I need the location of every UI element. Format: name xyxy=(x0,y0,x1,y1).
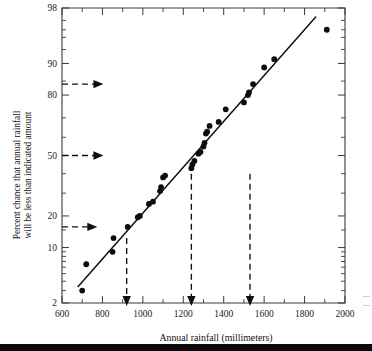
x-tick-label: 1800 xyxy=(295,309,314,319)
v-arrow-1240-head xyxy=(187,296,195,306)
data-point xyxy=(202,140,208,146)
h-arrow-16-head xyxy=(87,223,97,231)
y-tick-label: 20 xyxy=(48,211,58,221)
data-point xyxy=(324,27,330,33)
h-arrow-84-head xyxy=(93,80,103,88)
x-axis-ticks xyxy=(62,8,345,303)
data-point xyxy=(150,199,156,205)
y-tick-label: 80 xyxy=(48,90,58,100)
y-axis-tick-labels: 2102050809098 xyxy=(48,3,58,308)
data-point xyxy=(158,184,164,190)
data-point xyxy=(246,90,252,96)
svg-text:Percent chance that annual rai: Percent chance that annual rainfall xyxy=(12,110,22,239)
x-axis-tick-labels: 600800100012001400160018002000 xyxy=(55,309,355,319)
h-arrow-50-head xyxy=(93,151,103,159)
x-tick-label: 1600 xyxy=(255,309,274,319)
data-point xyxy=(198,149,204,155)
v-arrow-920-head xyxy=(122,296,130,306)
svg-text:will be less than indicated am: will be less than indicated amount xyxy=(23,111,33,238)
x-tick-label: 600 xyxy=(55,309,70,319)
y-axis-title: Percent chance that annual rainfall will… xyxy=(12,110,33,239)
data-point xyxy=(216,119,222,125)
data-point xyxy=(83,261,89,267)
scan-border-bar xyxy=(0,344,372,351)
data-point xyxy=(241,100,247,106)
y-axis-ticks xyxy=(62,8,345,303)
data-point xyxy=(204,129,210,135)
data-point xyxy=(250,81,256,87)
x-tick-label: 1400 xyxy=(214,309,233,319)
data-point-series xyxy=(79,27,329,294)
data-point xyxy=(223,106,229,112)
data-point xyxy=(79,288,85,294)
data-point xyxy=(111,235,117,241)
x-tick-label: 1000 xyxy=(133,309,152,319)
data-point xyxy=(137,213,143,219)
y-tick-label: 50 xyxy=(48,151,58,161)
y-tick-label: 2 xyxy=(52,298,57,308)
rainfall-probability-figure: 600800100012001400160018002000 210205080… xyxy=(0,0,372,351)
x-tick-label: 800 xyxy=(95,309,110,319)
scan-edge-mark-bottom xyxy=(363,305,370,306)
data-point xyxy=(261,65,267,71)
x-tick-label: 1200 xyxy=(174,309,193,319)
y-tick-label: 10 xyxy=(48,243,58,253)
x-axis-title: Annual rainfall (millimeters) xyxy=(159,332,272,344)
svg-text:Annual rainfall (millimeters): Annual rainfall (millimeters) xyxy=(159,332,272,344)
y-tick-label: 90 xyxy=(48,59,58,69)
chart-canvas: 600800100012001400160018002000 210205080… xyxy=(0,0,372,351)
data-point xyxy=(271,56,277,62)
scan-edge-mark-top xyxy=(363,296,370,297)
v-arrow-1530-head xyxy=(246,296,254,306)
plot-frame xyxy=(62,8,345,303)
y-tick-label: 98 xyxy=(48,3,58,13)
data-point xyxy=(192,158,198,164)
x-tick-label: 2000 xyxy=(336,309,355,319)
data-point xyxy=(207,123,213,129)
data-point xyxy=(125,224,131,230)
data-point xyxy=(162,173,168,179)
data-point xyxy=(110,249,116,255)
